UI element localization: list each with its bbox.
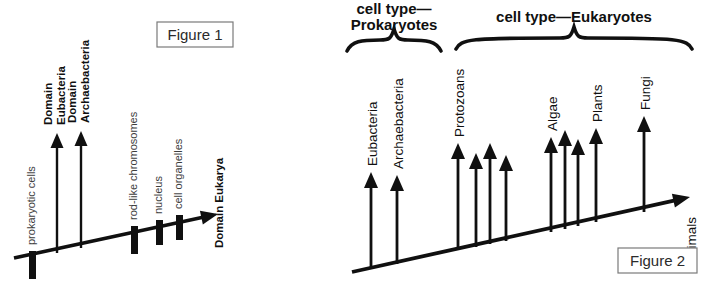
tick-bar-prokaryotic-cells [29, 251, 36, 279]
figure2-label-archaebacteria: Archaebacteria [391, 78, 406, 169]
brace-eukaryotes-brace [456, 27, 692, 49]
figure1-tick-label-nucleus: nucleus [152, 176, 164, 214]
figure2-arrow-plants [589, 128, 603, 222]
figure2-label-fungi: Fungi [638, 76, 653, 110]
figure2-arrow-algae-branch-3-head [571, 139, 585, 155]
tick-bar-cell-organelles [176, 215, 183, 240]
figure1-arrow-domain-eubacteria-head [51, 133, 64, 148]
figure2-arrow-algae-head [544, 137, 558, 153]
figure2-arrow-protozoan-branch-4 [499, 155, 513, 241]
figure1-arrow-label-domain-eubacteria: DomainEubacteria [42, 66, 67, 125]
figure2-arrow-algae-branch-2 [558, 130, 572, 229]
figure2-arrow-protozoan-branch-2 [469, 153, 483, 247]
figure-1: DomainEubacteriaDomainArchaebacteriaDoma… [14, 22, 233, 279]
figure2-arrow-protozoan-branch-4-head [499, 155, 513, 171]
figure2-arrow-protozoans-head [451, 143, 465, 159]
figure1-tick-label-rod-like-chromosomes: rod-like chromosomes [127, 111, 139, 220]
figure2-timeline-axis-head [672, 194, 690, 208]
figure2-label-plants: Plants [590, 84, 605, 122]
figure2-arrow-algae-branch-2-head [558, 130, 572, 146]
figure2-arrow-eubacteria [364, 172, 378, 269]
brace-path-eukaryotes-brace [456, 27, 692, 49]
figure2-label-protozoans: Protozoans [452, 68, 467, 137]
figure2-arrow-protozoans [451, 143, 465, 250]
figure2-arrow-protozoan-branch-3-head [483, 143, 497, 159]
figure1-caption-text: Figure 1 [167, 26, 222, 43]
figure1-arrow-domain-eubacteria [51, 133, 64, 253]
figure1-label-domain-eubacteria-line1: Domain [42, 83, 54, 125]
figure1-timeline-axis [14, 211, 218, 258]
figure2-label-eubacteria: Eubacteria [365, 101, 380, 166]
figure2-arrow-archaebacteria-head [390, 175, 404, 191]
figure-canvas: DomainEubacteriaDomainArchaebacteriaDoma… [0, 0, 707, 283]
figure1-arrow-domain-archaebacteria [75, 131, 88, 248]
figure2-arrow-fungi [637, 116, 651, 212]
figure1-axis-label: Domain Eukarya [213, 157, 225, 248]
figure1-arrow-label-domain-archaebacteria: DomainArchaebacteria [66, 39, 91, 123]
tick-bar-rod-like-chromosomes [131, 226, 138, 254]
figure2-caption-text: Figure 2 [630, 252, 685, 269]
figure2-arrow-plants-head [589, 128, 603, 144]
figure1-label-domain-archaebacteria-line2: Archaebacteria [79, 39, 91, 123]
figure2-arrow-protozoan-branch-3 [483, 143, 497, 244]
figure2-arrow-algae-branch-3 [571, 139, 585, 226]
figure2-caption: Figure 2 [618, 248, 697, 273]
brace-title-eukaryotes-brace-line1: cell type—Eukaryotes [496, 8, 652, 25]
figure1-tick-label-cell-organelles: cell organelles [172, 138, 184, 209]
figure1-caption: Figure 1 [157, 22, 233, 47]
tick-bar-nucleus [156, 220, 163, 245]
figure1-arrow-domain-archaebacteria-head [75, 131, 88, 146]
diagram-svg: DomainEubacteriaDomainArchaebacteriaDoma… [0, 0, 707, 283]
brace-title-prokaryotes-brace-line1: cell type— [356, 0, 431, 17]
figure2-arrow-algae [544, 137, 558, 232]
figure2-arrow-archaebacteria [390, 175, 404, 264]
brace-title-prokaryotes-brace-line2: Prokaryotes [351, 16, 438, 33]
figure2-arrow-protozoan-branch-2-head [469, 153, 483, 169]
figure-2: cell type—Prokaryotescell type—Eukaryote… [347, 0, 699, 273]
figure1-label-domain-archaebacteria-line1: Domain [66, 81, 78, 123]
brace-title-prokaryotes-brace: cell type—Prokaryotes [351, 0, 438, 33]
brace-title-eukaryotes-brace: cell type—Eukaryotes [496, 8, 652, 25]
figure2-label-algae: Algae [545, 96, 560, 131]
figure2-arrow-eubacteria-head [364, 172, 378, 188]
figure1-tick-label-prokaryotic-cells: prokaryotic cells [25, 166, 37, 245]
figure2-arrow-fungi-head [637, 116, 651, 132]
